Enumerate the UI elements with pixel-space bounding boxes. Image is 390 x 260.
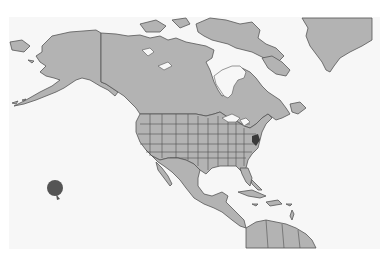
arctic-island-small [140,20,166,32]
greenland [302,18,372,72]
florida [240,168,252,186]
map-canvas[interactable] [0,0,390,260]
alaska-island-2 [28,60,34,63]
cuba [238,190,266,198]
jamaica [252,204,258,206]
newfoundland [290,102,306,114]
pacific-marker[interactable] [47,180,63,196]
puerto-rico [286,204,292,206]
alaska-island [10,40,30,52]
baffin-island [262,56,290,76]
arctic-island-small-2 [172,18,190,28]
south-america [246,220,316,248]
lesser-antilles [290,210,294,220]
hispaniola [266,200,282,206]
